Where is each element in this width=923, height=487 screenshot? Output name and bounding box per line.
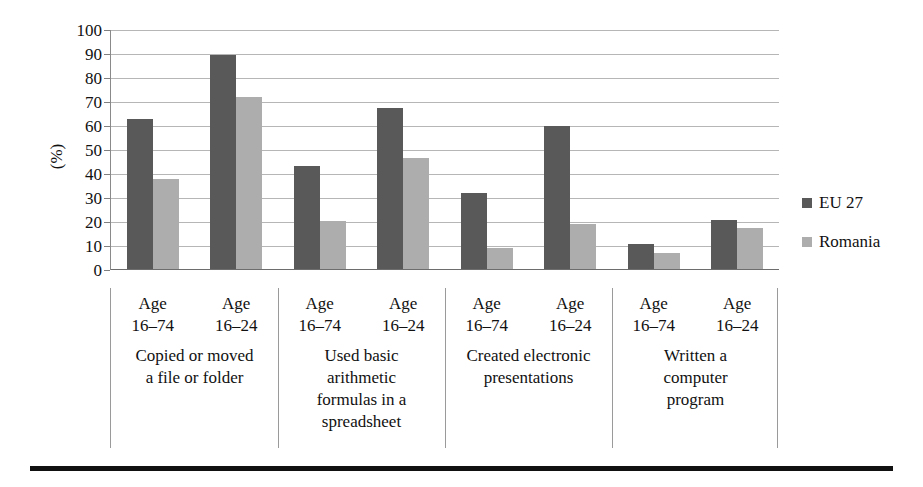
chart-page: (%) 1009080706050403020100 Age16–74Age16… <box>0 0 923 487</box>
category-title-line: computer <box>616 367 775 389</box>
category-separator <box>278 288 279 448</box>
category-title-line: Copied or moved <box>115 345 274 367</box>
y-tick-label: 90 <box>68 46 102 63</box>
bar-eu27 <box>210 55 236 270</box>
y-tick-label: 10 <box>68 238 102 255</box>
bar-romania <box>153 179 179 270</box>
bar-romania <box>737 228 763 270</box>
category-title-line: presentations <box>449 367 608 389</box>
age-group-label: Age16–24 <box>696 288 780 337</box>
bar-eu27 <box>711 220 737 270</box>
age-label-line: 16–74 <box>278 315 362 337</box>
age-label-line: 16–24 <box>362 315 446 337</box>
category-title-line: spreadsheet <box>282 411 441 433</box>
category-title-line: Used basic <box>282 345 441 367</box>
bar-eu27 <box>544 126 570 270</box>
y-tick-label: 80 <box>68 70 102 87</box>
category-label-panel: Age16–74Age16–24Copied or moveda file or… <box>110 288 778 448</box>
category-title: Created electronicpresentations <box>449 345 608 389</box>
category-title: Copied or moveda file or folder <box>115 345 274 389</box>
bar-romania <box>570 224 596 270</box>
y-tick-label: 100 <box>68 22 102 39</box>
bar-romania <box>236 97 262 270</box>
y-tick-label: 60 <box>68 118 102 135</box>
y-tick-label: 20 <box>68 214 102 231</box>
age-label-line: 16–74 <box>612 315 696 337</box>
chart-legend: EU 27Romania <box>802 194 920 272</box>
bar-romania <box>403 158 429 270</box>
age-label-line: Age <box>278 293 362 315</box>
y-tick-label: 70 <box>68 94 102 111</box>
y-tick-label: 30 <box>68 190 102 207</box>
age-label-row: Age16–74Age16–24 <box>111 288 278 337</box>
legend-label: Romania <box>819 233 880 250</box>
category-cell: Age16–74Age16–24Copied or moveda file or… <box>111 288 278 448</box>
age-label-line: 16–24 <box>696 315 780 337</box>
age-label-line: Age <box>195 293 279 315</box>
plot-area <box>110 30 779 270</box>
bar-eu27 <box>377 108 403 270</box>
category-title-line: a file or folder <box>115 367 274 389</box>
category-cell: Age16–74Age16–24Created electronicpresen… <box>445 288 612 448</box>
bar-eu27 <box>628 244 654 270</box>
age-label-line: Age <box>529 293 613 315</box>
x-axis-baseline <box>111 269 779 270</box>
legend-label: EU 27 <box>819 194 863 211</box>
category-title-line: Written a <box>616 345 775 367</box>
age-label-line: Age <box>612 293 696 315</box>
plot-wrapper: 1009080706050403020100 <box>68 30 778 288</box>
legend-swatch-icon <box>802 198 812 208</box>
category-cell: Age16–74Age16–24Written acomputerprogram <box>612 288 779 448</box>
age-label-line: Age <box>696 293 780 315</box>
age-label-line: Age <box>362 293 446 315</box>
age-group-label: Age16–74 <box>612 288 696 337</box>
bar-eu27 <box>294 166 320 270</box>
bar-romania <box>320 221 346 270</box>
category-title: Used basicarithmeticformulas in aspreads… <box>282 345 441 433</box>
y-tick-label: 50 <box>68 142 102 159</box>
category-separator <box>445 288 446 448</box>
y-axis-tick-labels: 1009080706050403020100 <box>68 30 102 288</box>
age-label-line: Age <box>445 293 529 315</box>
age-group-label: Age16–24 <box>529 288 613 337</box>
bar-eu27 <box>127 119 153 270</box>
age-label-line: 16–24 <box>195 315 279 337</box>
bar-chart-figure: (%) 1009080706050403020100 Age16–74Age16… <box>0 0 923 448</box>
category-title-line: formulas in a <box>282 389 441 411</box>
age-label-row: Age16–74Age16–24 <box>612 288 779 337</box>
bar-eu27 <box>461 193 487 270</box>
y-tick-mark <box>104 270 110 271</box>
age-label-line: Age <box>111 293 195 315</box>
age-group-label: Age16–24 <box>362 288 446 337</box>
category-separator <box>612 288 613 448</box>
y-axis-title: (%) <box>48 137 65 177</box>
age-group-label: Age16–74 <box>445 288 529 337</box>
age-group-label: Age16–74 <box>111 288 195 337</box>
age-label-line: 16–74 <box>111 315 195 337</box>
age-label-row: Age16–74Age16–24 <box>278 288 445 337</box>
bar-romania <box>654 253 680 270</box>
category-title-line: program <box>616 389 775 411</box>
category-title-line: arithmetic <box>282 367 441 389</box>
category-title-line: Created electronic <box>449 345 608 367</box>
y-tick-label: 0 <box>68 262 102 279</box>
category-title: Written acomputerprogram <box>616 345 775 411</box>
legend-item[interactable]: EU 27 <box>802 194 920 211</box>
age-group-label: Age16–74 <box>278 288 362 337</box>
age-group-label: Age16–24 <box>195 288 279 337</box>
bars-layer <box>111 30 779 270</box>
bottom-rule-divider <box>30 466 893 471</box>
age-label-line: 16–74 <box>445 315 529 337</box>
age-label-line: 16–24 <box>529 315 613 337</box>
category-cell: Age16–74Age16–24Used basicarithmeticform… <box>278 288 445 448</box>
bar-romania <box>487 248 513 270</box>
legend-swatch-icon <box>802 237 812 247</box>
y-tick-label: 40 <box>68 166 102 183</box>
age-label-row: Age16–74Age16–24 <box>445 288 612 337</box>
legend-item[interactable]: Romania <box>802 233 920 250</box>
